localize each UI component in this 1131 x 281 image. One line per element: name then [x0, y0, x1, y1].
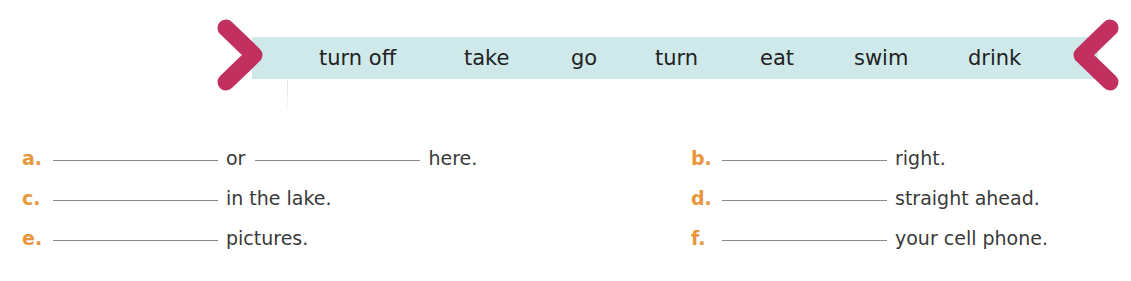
item-label: e. — [22, 223, 53, 253]
item-label: c. — [22, 183, 53, 213]
item-text: pictures. — [226, 223, 308, 253]
answer-blank[interactable] — [722, 159, 887, 161]
word-bank-word: swim — [854, 44, 908, 72]
item-text: straight ahead. — [895, 183, 1040, 213]
exercise-item-d: d. straight ahead. — [691, 183, 1050, 213]
word-bank: turn off take go turn eat swim drink — [0, 0, 1131, 110]
exercise-item-a: a. or here. — [22, 143, 487, 173]
word-bank-word: turn — [655, 44, 698, 72]
word-bank-word: turn off — [319, 44, 396, 72]
answer-blank[interactable] — [53, 159, 218, 161]
word-bank-word: drink — [968, 44, 1021, 72]
word-bank-word: eat — [760, 44, 794, 72]
chevron-left-icon — [1072, 18, 1120, 92]
item-label: a. — [22, 143, 53, 173]
answer-blank[interactable] — [255, 159, 420, 161]
word-bank-word: take — [464, 44, 509, 72]
item-label: b. — [691, 143, 722, 173]
exercise-item-f: f. your cell phone. — [691, 223, 1058, 253]
item-label: d. — [691, 183, 722, 213]
exercise-item-e: e. pictures. — [22, 223, 318, 253]
item-text: or — [226, 143, 245, 173]
item-label: f. — [691, 223, 722, 253]
exercise-item-b: b. right. — [691, 143, 956, 173]
answer-blank[interactable] — [53, 199, 218, 201]
chevron-right-icon — [216, 18, 264, 92]
item-text: here. — [428, 143, 477, 173]
exercise-item-c: c. in the lake. — [22, 183, 342, 213]
word-bank-word: go — [571, 44, 597, 72]
item-text: your cell phone. — [895, 223, 1048, 253]
item-text: right. — [895, 143, 946, 173]
answer-blank[interactable] — [53, 239, 218, 241]
item-text: in the lake. — [226, 183, 332, 213]
scan-mark — [287, 80, 288, 108]
answer-blank[interactable] — [722, 239, 887, 241]
answer-blank[interactable] — [722, 199, 887, 201]
